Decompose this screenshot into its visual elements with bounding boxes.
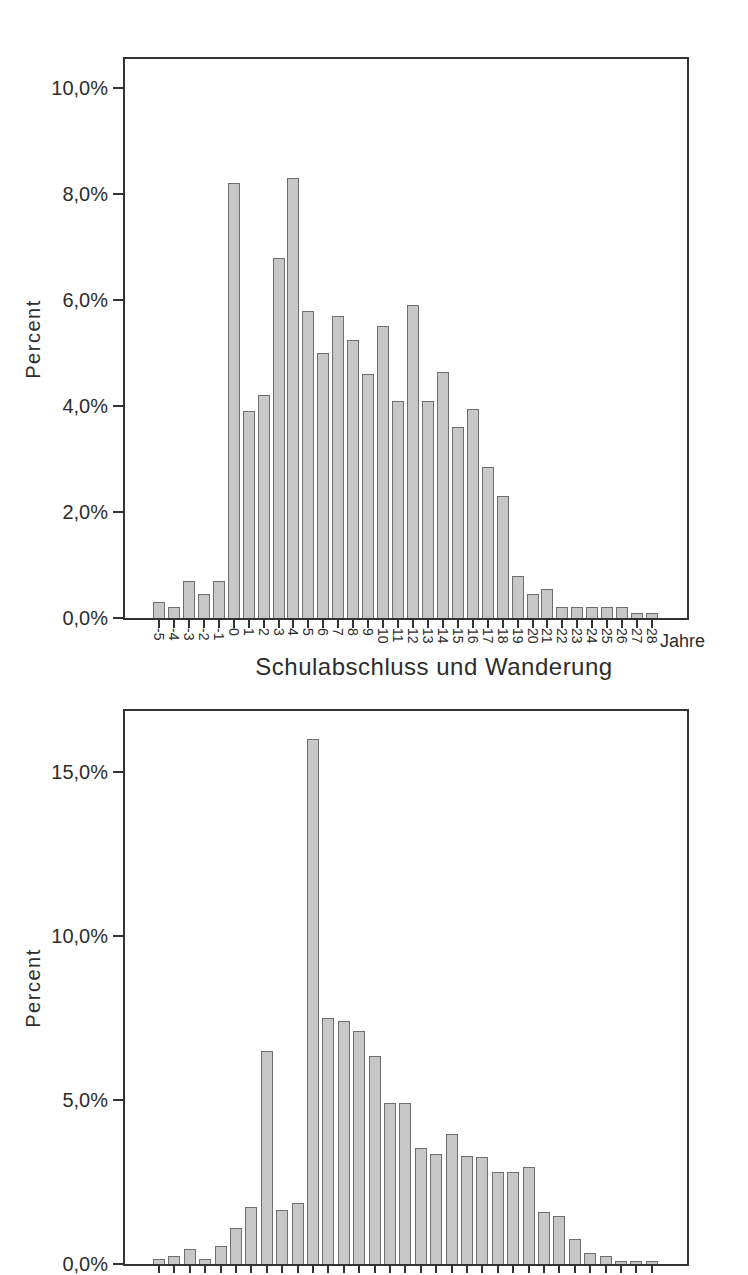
bar: [338, 1021, 350, 1264]
bar: [538, 1212, 550, 1264]
x-axis-tick-label: 10: [376, 628, 390, 644]
x-axis-tick-label: 3: [272, 628, 286, 636]
x-axis-tick-label: 21: [540, 628, 554, 644]
x-axis-tick-label: 7: [331, 628, 345, 636]
bar: [527, 594, 539, 618]
x-axis-tick-label: 25: [600, 628, 614, 644]
x-axis-tick-label: 11: [391, 628, 405, 643]
y-axis-tick-label: 2,0%: [62, 502, 108, 522]
bar: [437, 372, 449, 618]
x-axis-tick: [435, 1264, 437, 1273]
x-axis-tick-label: 12: [406, 628, 420, 644]
y-axis-tick-label: 8,0%: [62, 184, 108, 204]
y-axis-title: Percent: [22, 299, 45, 378]
x-axis-tick: [574, 1264, 576, 1273]
bar: [384, 1103, 396, 1264]
x-axis-tick-label: 23: [570, 628, 584, 644]
y-axis-tick: [113, 617, 125, 619]
y-axis-tick-label: 10,0%: [51, 78, 108, 98]
x-axis-tick: [382, 618, 384, 628]
bar: [245, 1207, 257, 1264]
x-axis-tick-label: 2: [257, 628, 271, 636]
y-axis-tick-label: 0,0%: [62, 1254, 108, 1274]
x-axis-tick: [307, 618, 309, 628]
y-axis-tick-label: 4,0%: [62, 396, 108, 416]
x-axis-tick: [635, 1264, 637, 1273]
x-axis-tick: [322, 618, 324, 628]
x-axis-tick: [188, 618, 190, 628]
x-axis-tick: [337, 618, 339, 628]
x-axis-tick: [532, 618, 534, 628]
x-axis-tick-label: -2: [197, 628, 211, 640]
x-axis-tick: [250, 1264, 252, 1273]
bar: [467, 409, 479, 618]
y-axis-title: Percent: [22, 948, 45, 1027]
bar: [422, 401, 434, 618]
bar: [258, 395, 270, 618]
plot-border: [123, 57, 689, 620]
x-axis-tick: [266, 1264, 268, 1273]
x-axis-tick: [472, 618, 474, 628]
y-axis-tick-label: 15,0%: [51, 762, 108, 782]
x-axis-tick: [220, 1264, 222, 1273]
x-axis-tick-label: 17: [481, 628, 495, 644]
x-axis-tick-label: 20: [526, 628, 540, 644]
x-axis-tick: [404, 1264, 406, 1273]
x-axis-tick: [158, 1264, 160, 1273]
x-axis-tick: [297, 1264, 299, 1273]
x-axis-tick: [412, 618, 414, 628]
bar: [362, 374, 374, 618]
histogram-schulabschluss-und-wanderung: Percent Jahre Schulabschluss und Wanderu…: [125, 59, 687, 618]
bar: [168, 1256, 180, 1264]
x-axis-tick-label: 1: [242, 628, 256, 636]
bar: [461, 1156, 473, 1264]
x-axis-tick: [235, 1264, 237, 1273]
x-axis-tick: [203, 618, 205, 628]
x-axis-tick: [218, 618, 220, 628]
bar: [307, 739, 319, 1264]
bar: [243, 411, 255, 618]
bar: [407, 305, 419, 618]
x-axis-tick: [457, 618, 459, 628]
bar: [497, 496, 509, 618]
bar: [347, 340, 359, 618]
y-axis-tick: [113, 935, 125, 937]
y-axis-tick: [113, 193, 125, 195]
bar: [230, 1228, 242, 1264]
bar: [292, 1203, 304, 1264]
y-axis-tick: [113, 771, 125, 773]
x-axis-tick-label: 16: [466, 628, 480, 644]
bar: [512, 576, 524, 618]
x-axis-tick-label: -5: [152, 628, 166, 640]
bar: [586, 607, 598, 618]
bar: [600, 1256, 612, 1264]
y-axis-tick-label: 5,0%: [62, 1090, 108, 1110]
x-axis-tick-label: 24: [585, 628, 599, 644]
x-axis-tick: [173, 1264, 175, 1273]
x-axis-tick: [589, 1264, 591, 1273]
x-axis-tick: [327, 1264, 329, 1273]
bar: [616, 607, 628, 618]
x-axis-tick: [481, 1264, 483, 1273]
x-axis-tick-label: 19: [511, 628, 525, 644]
bar: [556, 607, 568, 618]
x-axis-tick: [442, 618, 444, 628]
x-axis-tick: [352, 618, 354, 628]
bar: [332, 316, 344, 618]
x-axis-tick-label: 28: [645, 628, 659, 644]
bar: [302, 311, 314, 618]
histogram-second: Percent 0,0%5,0%10,0%15,0%: [125, 711, 687, 1264]
bar: [541, 589, 553, 618]
bar: [153, 602, 165, 618]
bar: [584, 1253, 596, 1264]
x-axis-tick: [487, 618, 489, 628]
x-axis-tick-label: 5: [301, 628, 315, 636]
x-axis-tick: [512, 1264, 514, 1273]
bar: [353, 1031, 365, 1264]
y-axis-tick: [113, 1099, 125, 1101]
bar: [184, 1249, 196, 1264]
x-axis-tick: [281, 1264, 283, 1273]
bar: [392, 401, 404, 618]
x-axis-tick: [636, 618, 638, 628]
